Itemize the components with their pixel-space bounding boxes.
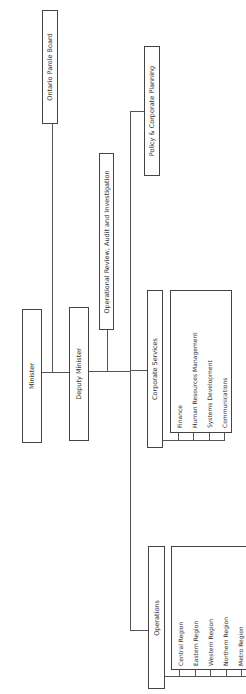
node-parole-board: Ontario Parole Board (42, 10, 58, 124)
tick (241, 670, 242, 676)
node-label: Minister (28, 363, 36, 389)
node-label: Policy & Corporate Planning (148, 66, 156, 156)
connector-corp-list (163, 440, 225, 441)
unit-central: Central Region (177, 622, 184, 666)
node-label: Operations (153, 600, 161, 636)
connector-corporate (130, 370, 147, 371)
unit-communications: Communications (221, 378, 228, 428)
node-corporate-services: Corporate Services (147, 290, 163, 448)
connector-minister-parole (52, 124, 53, 373)
tick (210, 670, 211, 676)
node-label: Deputy Minister (75, 348, 83, 400)
unit-metro: Metro Region (237, 626, 244, 666)
connector-deputy-trunk (88, 371, 131, 372)
tick (209, 433, 210, 440)
connector-operations (130, 630, 148, 631)
unit-western: Western Region (207, 619, 214, 666)
connector-minister-deputy (41, 372, 69, 373)
node-deputy-minister: Deputy Minister (69, 307, 89, 441)
node-label: Ontario Parole Board (46, 33, 54, 100)
unit-finance: Finance (176, 405, 183, 428)
tick (224, 433, 225, 440)
connector-ops-list (165, 676, 246, 677)
connector-trunk (130, 111, 131, 631)
node-minister: Minister (22, 309, 42, 443)
node-label: Corporate Services (151, 338, 159, 400)
tick (178, 433, 179, 440)
node-policy-planning: Policy & Corporate Planning (144, 46, 160, 176)
node-label: Operational Review, Audit and Investigat… (103, 170, 111, 313)
operations-units: Central Region Eastern Region Western Re… (171, 546, 246, 670)
tick (193, 433, 194, 440)
unit-eastern: Eastern Region (192, 621, 199, 666)
unit-hr: Human Resources Management (191, 332, 198, 428)
node-operations: Operations (148, 546, 165, 689)
connector-policy (130, 111, 145, 112)
tick (179, 670, 180, 676)
tick (195, 670, 196, 676)
tick (226, 670, 227, 676)
node-operational-review: Operational Review, Audit and Investigat… (99, 153, 114, 330)
connector-opreview (107, 330, 108, 371)
corporate-services-units: Finance Human Resources Management Syste… (170, 290, 232, 433)
unit-northern: Northern Region (222, 617, 229, 666)
unit-systems: Systems Development (206, 360, 213, 428)
